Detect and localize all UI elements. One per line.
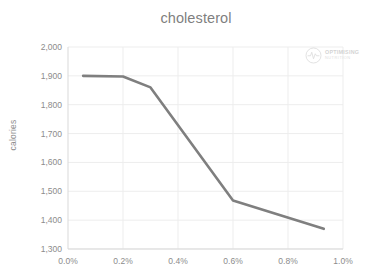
y-tick-label: 1,400 (20, 215, 62, 225)
x-tick-label: 0.8% (266, 256, 310, 266)
watermark-text: OPTIMISING NUTRITION (325, 50, 359, 61)
x-tick-label: 0.2% (101, 256, 145, 266)
y-tick-label: 1,900 (20, 71, 62, 81)
y-tick-label: 1,600 (20, 157, 62, 167)
y-tick-label: 1,700 (20, 129, 62, 139)
y-tick-label: 2,000 (20, 42, 62, 52)
x-tick-label: 1.0% (321, 256, 365, 266)
y-tick-label: 1,500 (20, 186, 62, 196)
watermark-line-1: OPTIMISING (325, 50, 359, 55)
x-tick-label: 0.4% (156, 256, 200, 266)
x-tick-label: 0.0% (46, 256, 90, 266)
pulse-circle-icon (305, 47, 322, 64)
chart-container: cholesterol calories 2,0001,9001,8001,70… (0, 0, 392, 279)
watermark-line-2: NUTRITION (325, 56, 359, 60)
watermark-logo: OPTIMISING NUTRITION (305, 45, 377, 65)
y-tick-label: 1,800 (20, 100, 62, 110)
x-tick-label: 0.6% (211, 256, 255, 266)
y-tick-label: 1,300 (20, 244, 62, 254)
